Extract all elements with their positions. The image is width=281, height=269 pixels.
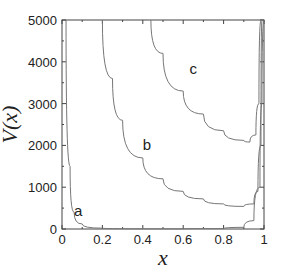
x-tick-label: 0.4 bbox=[134, 232, 152, 247]
axes: 00.20.40.60.81010002000300040005000xV(x) bbox=[0, 13, 268, 269]
curve-label-c: c bbox=[190, 60, 198, 77]
y-axis-label: V(x) bbox=[0, 106, 22, 144]
curve-label-a: a bbox=[74, 202, 83, 219]
x-tick-label: 0.8 bbox=[215, 232, 233, 247]
x-tick-label: 1 bbox=[260, 232, 267, 247]
curve-a bbox=[66, 20, 264, 229]
x-axis-label: x bbox=[157, 245, 168, 269]
y-tick-label: 2000 bbox=[28, 138, 57, 153]
y-tick-label: 4000 bbox=[28, 55, 57, 70]
y-tick-label: 0 bbox=[50, 222, 57, 237]
y-tick-label: 3000 bbox=[28, 97, 57, 112]
x-tick-label: 0 bbox=[58, 232, 65, 247]
curve-c bbox=[151, 20, 261, 142]
chart: 00.20.40.60.81010002000300040005000xV(x)… bbox=[0, 0, 281, 269]
curve-b bbox=[102, 20, 262, 206]
curve-label-b: b bbox=[143, 136, 151, 153]
x-tick-label: 0.6 bbox=[174, 232, 192, 247]
plot-frame bbox=[62, 20, 264, 229]
x-tick-label: 0.2 bbox=[93, 232, 111, 247]
curves bbox=[66, 20, 264, 229]
labels: abc bbox=[74, 60, 198, 219]
y-tick-label: 1000 bbox=[28, 180, 57, 195]
y-tick-label: 5000 bbox=[28, 13, 57, 28]
